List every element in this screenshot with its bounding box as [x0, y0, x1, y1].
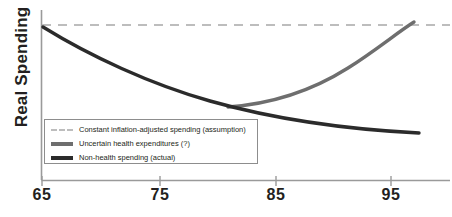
- legend-label-uncertain-health: Uncertain health expenditures (?): [79, 139, 190, 149]
- legend-swatch-grey-icon: [51, 139, 73, 149]
- legend-item-non-health: Non-health spending (actual): [51, 152, 257, 164]
- x-tick-label-75: 75: [151, 186, 170, 204]
- series-line-non-health: [43, 27, 419, 133]
- legend-swatch-dark-icon: [51, 153, 73, 163]
- legend-label-constant-inflation-adjusted: Constant inflation-adjusted spending (as…: [79, 125, 246, 135]
- legend-item-constant-inflation-adjusted: Constant inflation-adjusted spending (as…: [51, 124, 257, 136]
- x-tick-label-65: 65: [33, 186, 52, 204]
- x-tick-label-95: 95: [382, 186, 401, 204]
- series-line-uncertain-health: [228, 22, 414, 107]
- plot-area: [0, 0, 452, 217]
- chart-figure: Real Spending 65 75 85 95 Constant infla…: [0, 0, 452, 217]
- chart-legend: Constant inflation-adjusted spending (as…: [44, 119, 258, 164]
- legend-item-uncertain-health: Uncertain health expenditures (?): [51, 138, 257, 150]
- legend-label-non-health: Non-health spending (actual): [79, 153, 175, 163]
- legend-swatch-dashed-icon: [51, 125, 73, 135]
- x-tick-label-85: 85: [267, 186, 286, 204]
